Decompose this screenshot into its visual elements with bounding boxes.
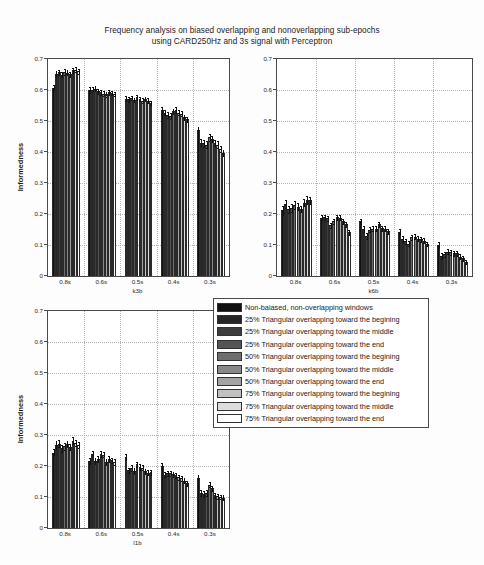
x-axis-tick-label: 0.8s bbox=[290, 278, 302, 285]
error-bar-cap bbox=[136, 95, 138, 96]
gridline-vertical bbox=[394, 59, 395, 276]
plot-area-k3b bbox=[47, 58, 230, 277]
error-bar-cap bbox=[108, 456, 110, 457]
y-axis-tick-label: 0.2 bbox=[24, 462, 43, 469]
error-bar-cap bbox=[150, 101, 152, 102]
error-bar-cap bbox=[136, 462, 138, 463]
y-axis-tick-label: 0 bbox=[253, 272, 272, 279]
error-bar-cap bbox=[186, 481, 188, 482]
error-bar-cap bbox=[161, 463, 163, 464]
error-bar-cap bbox=[125, 460, 127, 461]
error-bar bbox=[198, 127, 199, 134]
legend-swatch bbox=[217, 340, 242, 349]
y-axis-tick-label: 0 bbox=[24, 272, 43, 279]
y-axis-tick-label: 0.1 bbox=[24, 241, 43, 248]
y-axis-tick-mark bbox=[44, 310, 47, 311]
legend-swatch bbox=[217, 315, 242, 324]
legend-swatch bbox=[217, 389, 242, 398]
error-bar-cap bbox=[453, 251, 455, 252]
error-bar-cap bbox=[186, 117, 188, 118]
bar bbox=[222, 153, 225, 276]
error-bar-cap bbox=[178, 110, 180, 111]
bar bbox=[186, 483, 189, 528]
y-axis-tick-mark bbox=[44, 120, 47, 121]
error-bar-cap bbox=[139, 97, 141, 98]
figure-canvas: Frequency analysis on biased overlapping… bbox=[0, 0, 484, 565]
y-axis-tick-mark bbox=[44, 434, 47, 435]
y-axis-tick-mark bbox=[273, 120, 276, 121]
gridline-horizontal bbox=[277, 90, 472, 91]
legend-swatch bbox=[217, 327, 242, 336]
error-bar-cap bbox=[181, 476, 183, 477]
error-bar-cap bbox=[161, 107, 163, 108]
error-bar-cap bbox=[89, 87, 91, 88]
y-axis-tick-mark bbox=[273, 182, 276, 183]
error-bar-cap bbox=[327, 216, 329, 217]
gridline-horizontal bbox=[48, 342, 229, 343]
y-axis-tick-mark bbox=[44, 403, 47, 404]
error-bar-cap bbox=[345, 227, 347, 228]
x-axis-tick-label: 0.6s bbox=[95, 278, 107, 285]
legend-item: Non-baiased, non-overlapping windows bbox=[217, 301, 425, 313]
error-bar-cap bbox=[198, 482, 200, 483]
error-bar-cap bbox=[450, 250, 452, 251]
y-axis-tick-label: 0.1 bbox=[253, 241, 272, 248]
error-bar-cap bbox=[58, 70, 60, 71]
bar bbox=[150, 472, 153, 528]
error-bar bbox=[59, 440, 60, 447]
error-bar-cap bbox=[131, 96, 133, 97]
error-bar-cap bbox=[150, 475, 152, 476]
error-bar-cap bbox=[462, 256, 464, 257]
error-bar-cap bbox=[67, 70, 69, 71]
legend-swatch bbox=[217, 352, 242, 361]
y-axis-tick-label: 0.7 bbox=[24, 307, 43, 314]
error-bar-cap bbox=[100, 90, 102, 91]
bar bbox=[426, 244, 429, 276]
legend-item: 25% Triangular overlapping toward the mi… bbox=[217, 326, 425, 338]
y-axis-tick-label: 0.3 bbox=[24, 431, 43, 438]
error-bar-cap bbox=[114, 459, 116, 460]
error-bar bbox=[286, 200, 287, 208]
error-bar-cap bbox=[175, 473, 177, 474]
y-axis-tick-mark bbox=[273, 275, 276, 276]
error-bar-cap bbox=[369, 227, 371, 228]
gridline-vertical bbox=[193, 59, 194, 276]
error-bar-cap bbox=[294, 201, 296, 202]
error-bar-cap bbox=[285, 200, 287, 201]
x-axis-tick-label: 0.5s bbox=[368, 278, 380, 285]
error-bar-cap bbox=[459, 254, 461, 255]
error-bar-cap bbox=[67, 441, 69, 442]
subplot-k3b: 00.10.20.30.40.50.60.70.8s0.6s0.5s0.4s0.… bbox=[0, 48, 240, 296]
error-bar-cap bbox=[173, 472, 175, 473]
x-axis-tick-label: 0.8s bbox=[59, 530, 71, 537]
y-axis-tick-mark bbox=[44, 89, 47, 90]
error-bar-cap bbox=[145, 97, 147, 98]
gridline-horizontal bbox=[277, 183, 472, 184]
error-bar-cap bbox=[175, 107, 177, 108]
x-axis-label: k6b bbox=[369, 287, 379, 294]
legend-item: 50% Triangular overlapping toward the en… bbox=[217, 375, 425, 387]
error-bar-cap bbox=[378, 222, 380, 223]
gridline-vertical bbox=[433, 59, 434, 276]
error-bar-cap bbox=[111, 91, 113, 92]
y-axis-tick-label: 0.4 bbox=[24, 400, 43, 407]
x-axis-tick-label: 0.4s bbox=[407, 278, 419, 285]
error-bar-cap bbox=[426, 246, 428, 247]
error-bar-cap bbox=[111, 458, 113, 459]
error-bar-cap bbox=[164, 110, 166, 111]
error-bar-cap bbox=[405, 239, 407, 240]
error-bar-cap bbox=[131, 465, 133, 466]
y-axis-tick-mark bbox=[44, 244, 47, 245]
y-axis-tick-mark bbox=[44, 496, 47, 497]
error-bar-cap bbox=[336, 215, 338, 216]
subplot-k6b: 00.10.20.30.40.50.60.70.8s0.6s0.5s0.4s0.… bbox=[244, 48, 484, 296]
error-bar-cap bbox=[114, 465, 116, 466]
error-bar-cap bbox=[198, 475, 200, 476]
error-bar-cap bbox=[214, 493, 216, 494]
y-axis-tick-label: 0.2 bbox=[24, 210, 43, 217]
x-axis-tick-label: 0.4s bbox=[168, 530, 180, 537]
legend-item: 25% Triangular overlapping toward the en… bbox=[217, 338, 425, 350]
bar bbox=[113, 94, 116, 276]
error-bar-cap bbox=[92, 451, 94, 452]
error-bar-cap bbox=[399, 234, 401, 235]
